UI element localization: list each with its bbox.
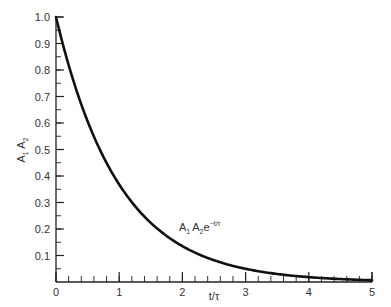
y-tick-label: 0.5 [35,144,50,156]
x-tick-label: 0 [53,286,59,298]
decay-curve [56,17,372,280]
y-tick-label: 0.8 [35,64,50,76]
decay-chart: 012345 0.10.20.30.40.50.60.70.80.91.0 t/… [0,0,391,307]
y-tick-label: 0.4 [35,170,50,182]
y-tick-labels: 0.10.20.30.40.50.60.70.80.91.0 [35,11,50,262]
y-tick-label: 0.2 [35,223,50,235]
x-axis-title: t/τ [209,290,220,302]
curve-annotation: A1A2e−t/τ [179,220,221,235]
x-tick-label: 5 [369,286,375,298]
y-tick-label: 0.1 [35,250,50,262]
x-tick-label: 3 [243,286,249,298]
x-tick-label: 2 [179,286,185,298]
x-tick-label: 4 [306,286,312,298]
y-tick-label: 0.9 [35,38,50,50]
y-tick-label: 0.7 [35,91,50,103]
y-tick-label: 0.3 [35,197,50,209]
y-axis-title: A1 A2 [15,137,29,162]
x-tick-label: 1 [116,286,122,298]
y-tick-label: 0.6 [35,117,50,129]
svg-text:A1 A2: A1 A2 [15,137,29,162]
y-tick-label: 1.0 [35,11,50,23]
